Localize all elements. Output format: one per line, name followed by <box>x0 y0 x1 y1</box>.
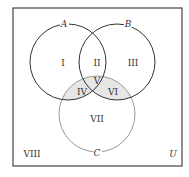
set-label-b: B <box>124 19 132 29</box>
venn-diagram: A B C I II III IV V VI VII VIII U <box>0 0 189 177</box>
region-6: VI <box>107 87 118 97</box>
region-2: II <box>93 58 101 68</box>
region-3: III <box>128 58 139 68</box>
set-label-c: C <box>94 148 101 158</box>
set-label-a: A <box>60 19 68 29</box>
universe-label: U <box>169 149 177 159</box>
region-4: IV <box>77 87 88 97</box>
region-8: VIII <box>22 149 41 159</box>
region-7: VII <box>89 114 104 124</box>
region-1: I <box>61 58 65 68</box>
region-5: V <box>93 76 101 86</box>
